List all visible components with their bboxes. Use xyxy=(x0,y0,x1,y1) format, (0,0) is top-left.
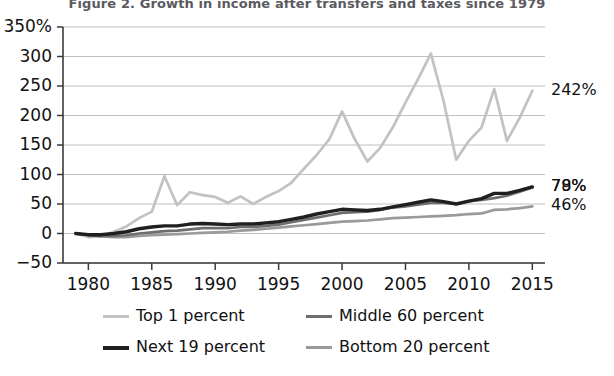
y-tick-label: 50 xyxy=(0,195,52,212)
legend-label-next-19-percent: Next 19 percent xyxy=(136,337,265,356)
x-tick-label: 2005 xyxy=(375,276,435,293)
legend-item-next-19-percent[interactable]: Next 19 percent xyxy=(103,337,265,356)
x-tick-label: 2015 xyxy=(502,276,562,293)
gridlines-group xyxy=(63,27,545,263)
legend-swatch-top-1-percent xyxy=(103,315,129,318)
y-tick-label: −50 xyxy=(0,254,52,271)
legend-label-top-1-percent: Top 1 percent xyxy=(136,306,245,325)
chart-legend: Top 1 percent Middle 60 percent Next 19 … xyxy=(103,306,523,368)
legend-swatch-next-19-percent xyxy=(103,346,129,350)
legend-item-bottom-20-percent[interactable]: Bottom 20 percent xyxy=(306,337,490,356)
y-tick-label: 250 xyxy=(0,77,52,94)
x-tick-label: 2000 xyxy=(312,276,372,293)
legend-swatch-bottom-20-percent xyxy=(306,346,332,349)
legend-item-top-1-percent[interactable]: Top 1 percent xyxy=(103,306,245,325)
legend-swatch-middle-60-percent xyxy=(306,315,332,318)
y-tick-label: 150 xyxy=(0,136,52,153)
legend-item-middle-60-percent[interactable]: Middle 60 percent xyxy=(306,306,484,325)
y-tick-label: 0 xyxy=(0,225,52,242)
end-label-bottom-20-percent: 46% xyxy=(551,197,587,213)
y-tick-label: 350% xyxy=(0,18,52,35)
chart-container: Figure 2. Growth in income after transfe… xyxy=(0,0,614,376)
y-tick-label: 200 xyxy=(0,107,52,124)
x-tick-label: 1995 xyxy=(249,276,309,293)
x-tick-label: 1985 xyxy=(122,276,182,293)
x-tick-label: 1990 xyxy=(185,276,245,293)
series-line-next-19-percent xyxy=(76,187,533,235)
end-label-middle-60-percent: 78% xyxy=(551,178,587,194)
y-tick-label: 300 xyxy=(0,48,52,65)
legend-label-middle-60-percent: Middle 60 percent xyxy=(339,306,484,325)
x-tick-marks xyxy=(88,263,532,270)
x-tick-label: 2010 xyxy=(439,276,499,293)
legend-label-bottom-20-percent: Bottom 20 percent xyxy=(339,337,490,356)
end-label-top-1-percent: 242% xyxy=(551,82,597,98)
y-tick-label: 100 xyxy=(0,166,52,183)
x-tick-label: 1980 xyxy=(58,276,118,293)
